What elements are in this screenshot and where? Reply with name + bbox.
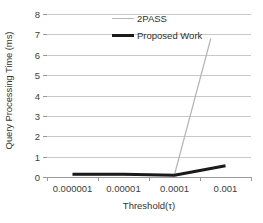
y-axis-tick-label: 6 [20, 49, 40, 60]
y-axis-tick-label: 8 [20, 9, 40, 20]
x-axis-tick-label: 0.000001 [53, 183, 93, 194]
chart-legend: 2PASS Proposed Work [112, 13, 202, 41]
series-line-proposed-work [73, 166, 226, 175]
legend-line-icon-2pass [112, 18, 134, 19]
legend-item-proposed-work: Proposed Work [112, 30, 202, 41]
y-axis-tick-label: 4 [20, 90, 40, 101]
y-axis-tick-label: 0 [20, 172, 40, 183]
x-axis-tick-label: 0.0001 [160, 183, 189, 194]
line-chart: Query Processing Time (ms) 012345678 0.0… [0, 0, 263, 223]
y-axis-tick-label: 3 [20, 110, 40, 121]
x-axis-tick-mark [200, 177, 201, 181]
y-axis-tick-label: 7 [20, 29, 40, 40]
legend-item-2pass: 2PASS [112, 13, 202, 24]
x-axis-tick-mark [47, 177, 48, 181]
x-axis-tick-label: 0.001 [214, 183, 238, 194]
x-axis-tick-mark [251, 177, 252, 181]
x-axis-tick-mark [98, 177, 99, 181]
x-axis-title: Threshold(τ) [47, 200, 251, 211]
legend-label-2pass: 2PASS [137, 13, 167, 24]
y-axis-title: Query Processing Time (ms) [0, 0, 18, 180]
legend-line-icon-proposed-work [112, 34, 134, 37]
y-axis-tick-label: 5 [20, 70, 40, 81]
legend-label-proposed-work: Proposed Work [137, 30, 202, 41]
x-axis-tick-mark [149, 177, 150, 181]
x-axis-tick-label: 0.00001 [106, 183, 140, 194]
y-axis-tick-label: 1 [20, 151, 40, 162]
y-axis-tick-label: 2 [20, 131, 40, 142]
series-line-2pass [73, 38, 211, 175]
y-axis-title-text: Query Processing Time (ms) [4, 31, 15, 149]
